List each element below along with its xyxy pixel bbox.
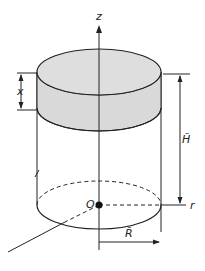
x-dim-arrow-up-icon	[19, 74, 24, 81]
h-dim-arrow-up-icon	[178, 75, 183, 82]
h-dim-arrow-down-icon	[178, 197, 183, 204]
cylinder-diagram: z x H̃ r O R̃	[0, 0, 205, 271]
thickness-label: x	[16, 85, 24, 98]
z-axis-label: z	[95, 10, 102, 23]
radius-label: R̃	[125, 227, 133, 240]
r-dim-arrow-icon	[153, 240, 160, 245]
r-axis-label: r	[190, 199, 196, 212]
origin-dot	[96, 202, 103, 209]
height-label: H̃	[182, 133, 190, 146]
x-dim-arrow-down-icon	[19, 102, 24, 109]
origin-label: O	[86, 198, 95, 211]
y-axis-solid	[8, 222, 65, 252]
z-axis-arrow-icon	[96, 25, 102, 33]
